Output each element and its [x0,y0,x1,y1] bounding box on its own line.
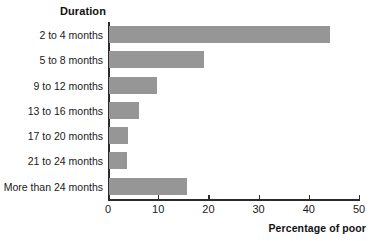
x-tick-mark-0 [108,195,109,201]
x-tick-mark-50 [359,195,360,201]
bar-6[interactable] [109,152,127,169]
bar-row: 21 to 24 months [0,148,371,173]
category-label-5: 17 to 20 months [0,130,103,142]
x-tick-mark-10 [158,195,159,201]
bar-row: 2 to 4 months [0,22,371,47]
category-label-3: 9 to 12 months [0,80,103,92]
bar-track [109,152,127,169]
bar-track [109,178,187,195]
category-label-4: 13 to 16 months [0,105,103,117]
bar-7[interactable] [109,178,187,195]
x-tick-mark-20 [208,195,209,201]
bar-track [109,127,128,144]
bar-1[interactable] [109,26,330,43]
bar-3[interactable] [109,77,157,94]
bar-4[interactable] [109,102,139,119]
x-tick-label-40: 40 [294,203,324,215]
bar-track [109,102,139,119]
x-tick-label-30: 30 [244,203,274,215]
bar-2[interactable] [109,51,204,68]
bar-row: 9 to 12 months [0,73,371,98]
bar-row: More than 24 months [0,174,371,199]
bar-track [109,77,157,94]
bar-chart: Duration 2 to 4 months5 to 8 months9 to … [0,0,371,241]
x-tick-label-10: 10 [143,203,173,215]
category-label-6: 21 to 24 months [0,155,103,167]
bar-row: 13 to 16 months [0,98,371,123]
category-axis-title: Duration [0,5,106,17]
x-tick-label-20: 20 [193,203,223,215]
x-tick-label-50: 50 [344,203,371,215]
bar-row: 17 to 20 months [0,123,371,148]
bar-track [109,26,330,43]
bar-5[interactable] [109,127,128,144]
category-label-7: More than 24 months [0,181,103,193]
category-label-1: 2 to 4 months [0,29,103,41]
x-tick-mark-30 [259,195,260,201]
x-tick-label-0: 0 [93,203,123,215]
x-axis-title: Percentage of poor [269,222,366,234]
bar-track [109,51,204,68]
x-tick-mark-40 [309,195,310,201]
bar-row: 5 to 8 months [0,47,371,72]
category-label-2: 5 to 8 months [0,54,103,66]
